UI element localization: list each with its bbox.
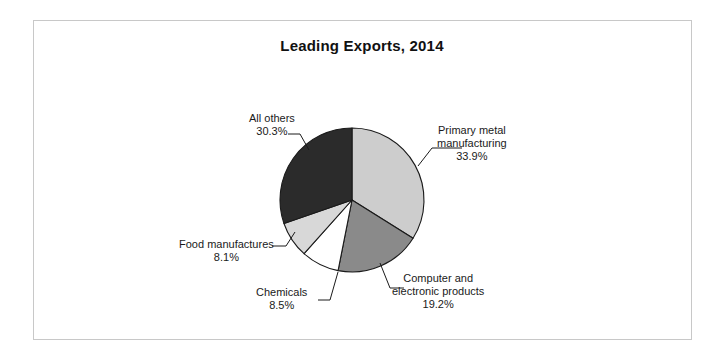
slice-label-line2: electronic products — [392, 285, 484, 298]
pie-slice-group — [280, 128, 424, 272]
slice-label-chemicals: Chemicals 8.5% — [256, 286, 307, 312]
slice-label-line1: Chemicals — [256, 286, 307, 299]
slice-label-line1: Food manufactures — [179, 238, 274, 251]
slice-label-percent: 8.1% — [179, 251, 274, 264]
slice-label-all-others: All others 30.3% — [249, 112, 295, 138]
slice-label-percent: 33.9% — [437, 150, 507, 163]
slice-label-percent: 30.3% — [249, 125, 295, 138]
slice-label-percent: 19.2% — [392, 298, 484, 311]
slice-label-computer-and-electronic-products: Computer and electronic products 19.2% — [392, 272, 484, 311]
slice-label-line1: Computer and — [392, 272, 484, 285]
slice-label-food-manufactures: Food manufactures 8.1% — [179, 238, 274, 264]
slice-label-percent: 8.5% — [256, 299, 307, 312]
pie-chart-figure: Leading Exports, 2014 Primary metal manu… — [0, 0, 724, 363]
slice-label-primary-metal-manufacturing: Primary metal manufacturing 33.9% — [437, 124, 507, 163]
chemicals-leader — [318, 272, 338, 300]
slice-label-line1: Primary metal — [437, 124, 507, 137]
slice-label-line2: manufacturing — [437, 137, 507, 150]
pie-chart-canvas — [0, 0, 724, 363]
slice-label-line1: All others — [249, 112, 295, 125]
